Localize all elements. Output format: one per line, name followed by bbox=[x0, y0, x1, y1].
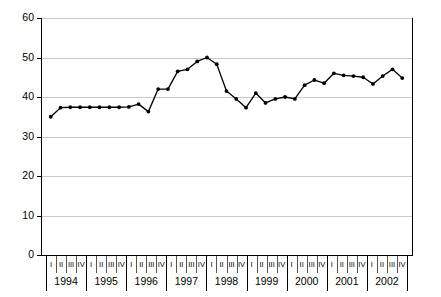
x-axis-quarter-label: I bbox=[46, 256, 56, 273]
x-axis-quarter-label: I bbox=[247, 256, 257, 273]
x-axis-quarter-label: III bbox=[106, 256, 116, 273]
y-axis-tick-mark bbox=[37, 216, 41, 217]
data-point bbox=[254, 91, 258, 95]
x-axis-quarter-label: I bbox=[367, 256, 377, 273]
year-separator bbox=[247, 256, 248, 273]
data-point bbox=[78, 105, 82, 109]
data-point bbox=[186, 67, 190, 71]
data-point bbox=[107, 105, 111, 109]
x-axis-quarter-label: III bbox=[227, 256, 237, 273]
data-point bbox=[264, 101, 268, 105]
y-axis-tick-mark bbox=[37, 18, 41, 19]
y-axis-tick-label: 50 bbox=[0, 52, 34, 63]
data-point bbox=[166, 87, 170, 91]
data-point bbox=[400, 76, 404, 80]
year-divider bbox=[206, 273, 207, 291]
x-axis-quarter-label: II bbox=[136, 256, 146, 273]
year-separator bbox=[206, 256, 207, 273]
x-axis-quarter-label: II bbox=[216, 256, 226, 273]
x-axis-year-label: 1999 bbox=[247, 273, 287, 291]
data-point bbox=[98, 105, 102, 109]
x-axis-quarter-label: III bbox=[347, 256, 357, 273]
data-point bbox=[146, 110, 150, 114]
x-axis-quarter-label: I bbox=[206, 256, 216, 273]
year-divider bbox=[166, 273, 167, 291]
year-separator bbox=[287, 256, 288, 273]
x-axis-quarter-label: III bbox=[307, 256, 317, 273]
y-axis-tick-mark bbox=[37, 97, 41, 98]
x-axis-quarter-label: III bbox=[66, 256, 76, 273]
x-axis-quarter-label: IV bbox=[156, 256, 166, 273]
series-line bbox=[51, 58, 402, 117]
data-series bbox=[41, 18, 412, 255]
data-point bbox=[342, 73, 346, 77]
x-axis-quarter-label: II bbox=[176, 256, 186, 273]
year-separator bbox=[367, 256, 368, 273]
x-axis-quarter-label: II bbox=[377, 256, 387, 273]
data-point bbox=[322, 81, 326, 85]
data-point bbox=[68, 105, 72, 109]
data-point bbox=[283, 95, 287, 99]
x-axis-quarter-label: II bbox=[56, 256, 66, 273]
x-axis-quarter-label: IV bbox=[196, 256, 206, 273]
x-axis-quarter-band: IIIIIIIVIIIIIIIVIIIIIIIVIIIIIIIVIIIIIIIV… bbox=[41, 256, 413, 273]
data-point bbox=[352, 74, 356, 78]
data-point bbox=[195, 60, 199, 64]
x-axis-quarter-label: I bbox=[126, 256, 136, 273]
data-point bbox=[176, 69, 180, 73]
x-axis-year-label: 2000 bbox=[287, 273, 327, 291]
data-point bbox=[49, 115, 53, 119]
year-divider bbox=[367, 273, 368, 291]
data-point bbox=[225, 89, 229, 93]
x-axis-quarter-label: IV bbox=[76, 256, 86, 273]
data-point bbox=[117, 105, 121, 109]
year-divider bbox=[86, 273, 87, 291]
line-chart: IIIIIIIVIIIIIIIVIIIIIIIVIIIIIIIVIIIIIIIV… bbox=[0, 0, 441, 297]
year-divider bbox=[126, 273, 127, 291]
data-point bbox=[391, 67, 395, 71]
x-axis-quarter-label: III bbox=[186, 256, 196, 273]
y-axis-tick-mark bbox=[37, 58, 41, 59]
year-divider bbox=[287, 273, 288, 291]
year-separator bbox=[166, 256, 167, 273]
x-axis-quarter-label: II bbox=[337, 256, 347, 273]
x-axis-quarter-label: III bbox=[387, 256, 397, 273]
x-axis-quarter-label: I bbox=[327, 256, 337, 273]
x-axis-quarter-label: IV bbox=[277, 256, 287, 273]
x-axis-quarter-label: I bbox=[86, 256, 96, 273]
year-divider bbox=[327, 273, 328, 291]
data-point bbox=[137, 102, 141, 106]
data-point bbox=[293, 97, 297, 101]
year-separator bbox=[46, 256, 47, 273]
year-divider bbox=[247, 273, 248, 291]
data-point bbox=[312, 78, 316, 82]
year-separator bbox=[126, 256, 127, 273]
year-divider bbox=[46, 273, 47, 291]
data-point bbox=[244, 106, 248, 110]
x-axis-quarter-label: IV bbox=[237, 256, 247, 273]
x-axis-year-label: 1995 bbox=[86, 273, 126, 291]
x-axis-year-label: 1997 bbox=[166, 273, 206, 291]
x-axis-year-label: 2002 bbox=[367, 273, 407, 291]
x-axis-year-label: 2001 bbox=[327, 273, 367, 291]
y-axis-tick-label: 30 bbox=[0, 131, 34, 142]
data-point bbox=[303, 83, 307, 87]
data-point bbox=[381, 74, 385, 78]
y-axis-tick-mark bbox=[37, 137, 41, 138]
x-axis-quarter-label: III bbox=[267, 256, 277, 273]
y-axis-tick-label: 0 bbox=[0, 249, 34, 260]
x-axis-quarter-label: I bbox=[166, 256, 176, 273]
x-axis-quarter-label: IV bbox=[397, 256, 407, 273]
y-axis-tick-label: 40 bbox=[0, 91, 34, 102]
y-axis-tick-label: 10 bbox=[0, 210, 34, 221]
data-point bbox=[273, 97, 277, 101]
y-axis-tick-label: 60 bbox=[0, 12, 34, 23]
x-axis-quarter-label: I bbox=[287, 256, 297, 273]
x-axis-year-label: 1998 bbox=[206, 273, 246, 291]
data-point bbox=[205, 56, 209, 60]
x-axis-quarter-label: IV bbox=[116, 256, 126, 273]
x-axis-quarter-label: IV bbox=[357, 256, 367, 273]
data-point bbox=[371, 82, 375, 86]
year-separator bbox=[327, 256, 328, 273]
y-axis-tick-mark bbox=[37, 255, 41, 256]
